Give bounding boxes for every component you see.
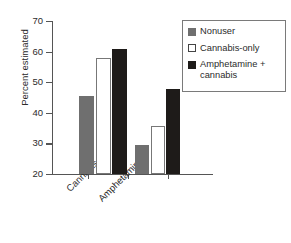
- x-tick-3: [168, 174, 169, 179]
- white-square-swatch-icon: [188, 44, 196, 52]
- chart-legend: Nonuser Cannabis-only Amphetamine + cann…: [182, 20, 286, 92]
- y-tick-20: [46, 174, 52, 175]
- y-tick-label-70: 70: [18, 16, 43, 26]
- bar-cannabis-cannabis-only: [96, 58, 111, 174]
- bar-amphetamine-cannabis-only: [151, 126, 165, 174]
- y-tick-40: [46, 113, 52, 114]
- legend-item-nonuser: Nonuser: [188, 26, 281, 37]
- y-tick-70: [46, 21, 52, 22]
- y-tick-label-20: 20: [18, 169, 43, 179]
- bar-cannabis-amphetamine-plus-cannabis: [112, 49, 127, 174]
- bar-amphetamine-amphetamine-plus-cannabis: [166, 89, 180, 175]
- black-square-swatch-icon: [188, 61, 196, 69]
- gray-square-swatch-icon: [188, 28, 196, 36]
- y-tick-label-50: 50: [18, 77, 43, 87]
- y-tick-50: [46, 82, 52, 83]
- y-tick-30: [46, 143, 52, 144]
- legend-label-amphetamine-plus-cannabis: Amphetamine + cannabis: [200, 59, 281, 80]
- legend-item-cannabis-only: Cannabis-only: [188, 43, 281, 54]
- y-axis-line: [52, 21, 53, 174]
- y-tick-label-40: 40: [18, 108, 43, 118]
- y-tick-label-30: 30: [18, 138, 43, 148]
- y-tick-label-60: 60: [18, 47, 43, 57]
- bar-chart-figure: Percent estimated 70 60 50 40 30 20 Cann…: [0, 0, 291, 243]
- bar-cannabis-nonuser: [79, 96, 94, 174]
- y-tick-60: [46, 52, 52, 53]
- legend-label-cannabis-only: Cannabis-only: [200, 43, 259, 54]
- legend-label-nonuser: Nonuser: [200, 26, 235, 37]
- bar-amphetamine-nonuser: [135, 145, 149, 174]
- legend-item-amphetamine-plus-cannabis: Amphetamine + cannabis: [188, 59, 281, 80]
